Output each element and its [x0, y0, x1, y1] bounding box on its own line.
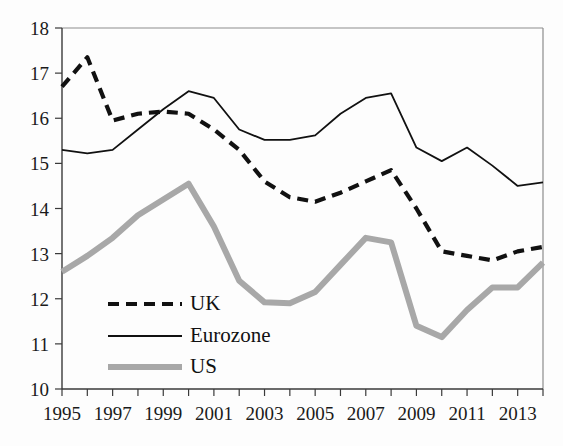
y-tick-label: 15	[30, 153, 49, 174]
x-tick-label: 2007	[347, 403, 385, 424]
x-tick-label: 2009	[397, 403, 435, 424]
y-axis-tick-labels: 101112131415161718	[30, 18, 50, 400]
series-line-us	[62, 184, 543, 337]
y-axis-ticks	[55, 28, 62, 389]
chart-legend: UKEurozoneUS	[108, 291, 270, 378]
y-tick-label: 12	[30, 289, 49, 310]
y-tick-label: 16	[30, 108, 49, 129]
x-tick-label: 1995	[43, 403, 81, 424]
x-tick-label: 2013	[499, 403, 537, 424]
y-tick-label: 18	[30, 18, 49, 39]
y-tick-label: 17	[30, 63, 49, 84]
y-tick-label: 13	[30, 244, 49, 265]
legend-label-us: US	[190, 354, 217, 378]
x-axis-ticks	[62, 389, 543, 396]
legend-label-uk: UK	[190, 291, 220, 315]
x-tick-label: 1999	[144, 403, 182, 424]
x-tick-label: 2003	[246, 403, 284, 424]
x-axis-tick-labels: 1995199719992001200320052007200920112013	[43, 403, 537, 424]
y-tick-label: 10	[30, 379, 49, 400]
series-line-uk	[62, 57, 543, 260]
x-tick-label: 1997	[94, 403, 132, 424]
y-tick-label: 14	[30, 199, 50, 220]
chart-canvas: 101112131415161718 199519971999200120032…	[0, 0, 563, 446]
line-chart: 101112131415161718 199519971999200120032…	[0, 0, 563, 446]
x-tick-label: 2001	[195, 403, 233, 424]
y-tick-label: 11	[31, 334, 49, 355]
series-line-eurozone	[62, 91, 543, 186]
x-tick-label: 2011	[448, 403, 485, 424]
data-series-group	[62, 57, 543, 337]
x-tick-label: 2005	[296, 403, 334, 424]
plot-frame	[62, 28, 543, 389]
legend-label-eurozone: Eurozone	[190, 323, 270, 347]
